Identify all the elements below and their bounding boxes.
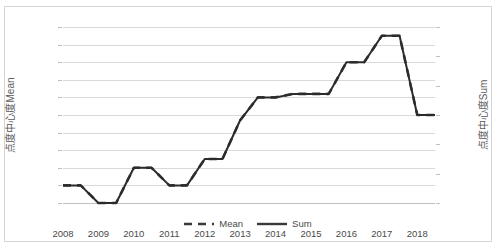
legend-swatch-mean-icon: [184, 220, 214, 228]
y-axis-tick-mark-right: [436, 27, 440, 28]
chart-container: 点度中心度Mean 点度中心度Sum 012345678910 01002003…: [4, 6, 492, 242]
y-axis-title-left: 点度中心度Mean: [6, 77, 16, 152]
x-axis-tick-label: 2017: [362, 229, 402, 239]
series-line-mean: [63, 36, 435, 203]
y-axis-tick-mark-right: [436, 144, 440, 145]
x-axis-tick-label: 2015: [291, 229, 331, 239]
legend-label: Mean: [219, 219, 243, 229]
y-axis-tick-mark-left: [58, 150, 62, 151]
y-axis-tick-mark-right: [436, 86, 440, 87]
y-axis-tick-mark-left: [58, 115, 62, 116]
series-lines: [63, 27, 435, 203]
x-axis-tick-label: 2018: [397, 229, 437, 239]
x-axis-tick-label: 2016: [326, 229, 366, 239]
x-axis-tick-label: 2008: [43, 229, 83, 239]
legend-label: Sum: [292, 219, 312, 229]
series-line-sum: [63, 36, 435, 203]
y-axis-tick-mark-left: [58, 45, 62, 46]
y-axis-tick-mark-right: [436, 174, 440, 175]
y-axis-tick-mark-left: [58, 203, 62, 204]
plot-area: 012345678910 0100200300400500600 2008200…: [63, 27, 435, 203]
y-axis-title-right: 点度中心度Sum: [479, 80, 489, 151]
chart-legend: MeanSum: [5, 219, 491, 229]
x-axis-tick-label: 2010: [114, 229, 154, 239]
y-axis-tick-mark-right: [436, 115, 440, 116]
y-axis-tick-mark-left: [58, 97, 62, 98]
legend-swatch-sum-icon: [257, 220, 287, 228]
legend-item-sum[interactable]: Sum: [257, 219, 312, 229]
legend-item-mean[interactable]: Mean: [184, 219, 243, 229]
y-axis-tick-mark-right: [436, 203, 440, 204]
y-axis-tick-mark-right: [436, 56, 440, 57]
y-axis-tick-mark-left: [58, 62, 62, 63]
x-axis-tick-label: 2012: [185, 229, 225, 239]
y-axis-tick-mark-left: [58, 185, 62, 186]
y-axis-tick-mark-left: [58, 168, 62, 169]
gridline: [63, 203, 435, 204]
x-axis-tick-label: 2014: [256, 229, 296, 239]
x-axis-tick-label: 2009: [78, 229, 118, 239]
y-axis-tick-mark-left: [58, 80, 62, 81]
y-axis-tick-mark-left: [58, 133, 62, 134]
x-axis-tick-label: 2011: [149, 229, 189, 239]
y-axis-tick-mark-left: [58, 27, 62, 28]
x-axis-tick-label: 2013: [220, 229, 260, 239]
